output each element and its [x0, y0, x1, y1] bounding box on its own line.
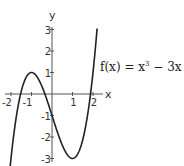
y-tick-label: -3 — [41, 154, 51, 165]
equation-suffix: − 3x − 1 — [150, 60, 184, 74]
x-tick-label: 1 — [70, 97, 76, 108]
y-axis-label: y — [49, 9, 56, 22]
x-axis-label: x — [105, 88, 112, 101]
function-equation-label: f(x) = x3 − 3x − 1 — [100, 60, 183, 74]
x-tick-label: -2 — [2, 97, 12, 108]
axes: x y — [5, 9, 112, 162]
x-tick-label: 2 — [91, 97, 97, 108]
y-tick-label: 1 — [45, 68, 51, 79]
function-plot: x y -2-112 321-1-2-3 f(x) = x3 − 3x − 1 — [0, 0, 183, 166]
y-tick-label: -2 — [41, 132, 51, 143]
x-tick-label: -1 — [23, 97, 33, 108]
equation-prefix: f(x) = x — [100, 60, 145, 74]
y-tick-label: -1 — [41, 111, 51, 122]
y-tick-label: 2 — [45, 46, 51, 57]
y-tick-label: 3 — [45, 25, 51, 36]
